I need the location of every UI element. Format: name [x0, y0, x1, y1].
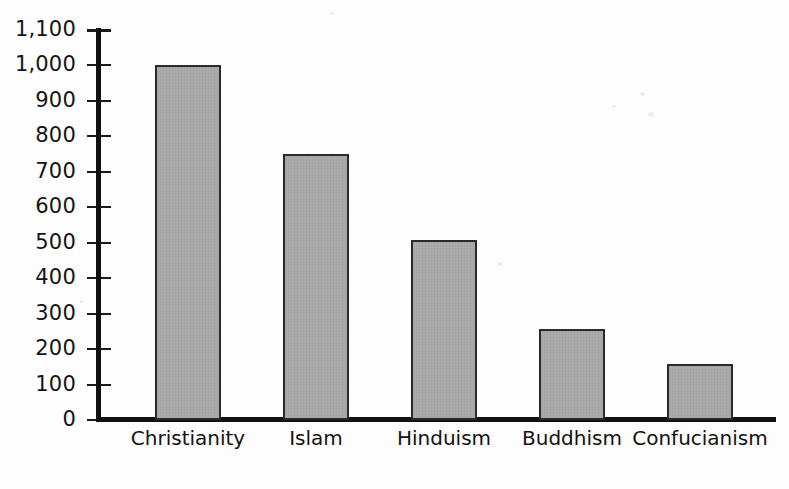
y-axis-tick-label: 900	[0, 90, 76, 111]
scan-speckle	[640, 92, 645, 96]
bar[interactable]	[283, 154, 349, 420]
y-axis-tick-label: 0	[0, 409, 76, 430]
y-axis-tick-label: 1,100	[0, 19, 76, 40]
y-axis-tick-label: 500	[0, 232, 76, 253]
y-axis-tick-label: 300	[0, 303, 76, 324]
y-axis-tick-label: 100	[0, 374, 76, 395]
scan-speckle	[498, 262, 502, 266]
chart-page: 1,1001,0009008007006005004003002001000 C…	[0, 0, 789, 489]
bar-texture	[285, 156, 347, 418]
y-axis-tick-label: 800	[0, 125, 76, 146]
bar[interactable]	[155, 65, 221, 420]
y-axis-tick-label: 600	[0, 196, 76, 217]
bar-texture	[669, 366, 731, 418]
bar-chart: 1,1001,0009008007006005004003002001000 C…	[0, 0, 789, 489]
bar-texture	[413, 242, 475, 418]
scan-speckle	[80, 300, 83, 303]
scan-speckle	[612, 105, 616, 108]
y-axis-tick-label: 1,000	[0, 54, 76, 75]
bar[interactable]	[411, 240, 477, 420]
scan-speckle	[330, 12, 334, 15]
bar-texture	[157, 67, 219, 418]
y-axis-tick-label: 400	[0, 267, 76, 288]
scan-speckle	[648, 112, 654, 117]
bar[interactable]	[667, 364, 733, 420]
bar-texture	[541, 331, 603, 418]
y-axis-tick-label: 200	[0, 338, 76, 359]
y-axis-tick-label: 700	[0, 161, 76, 182]
bar[interactable]	[539, 329, 605, 420]
y-axis-line	[96, 28, 101, 422]
x-axis-tick-label: Confucianism	[610, 428, 789, 448]
